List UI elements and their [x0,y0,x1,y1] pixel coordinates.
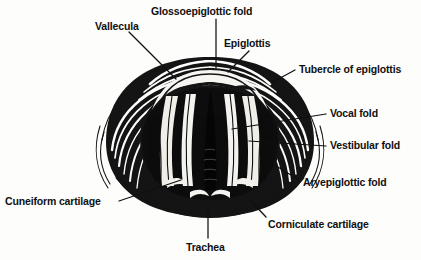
label-vocal-fold: Vocal fold [330,108,378,119]
label-trachea: Trachea [186,242,225,253]
larynx-anatomy-figure: ValleculaGlossoepiglottic foldEpiglottis… [0,0,421,260]
fold-bands [150,92,270,192]
label-vestibular-fold: Vestibular fold [330,140,400,151]
label-cuneiform-cartilage: Cuneiform cartilage [5,196,101,207]
label-aryepiglottic-fold: Aryepiglottic fold [303,177,387,188]
label-tubercle-of-epiglottis: Tubercle of epiglottis [299,64,401,75]
label-vallecula: Vallecula [95,21,139,32]
label-corniculate-cartilage: Corniculate cartilage [268,219,369,230]
illustration-body [96,57,323,218]
label-glossoepiglottic-fold: Glossoepiglottic fold [151,6,252,17]
label-epiglottis: Epiglottis [224,38,270,49]
